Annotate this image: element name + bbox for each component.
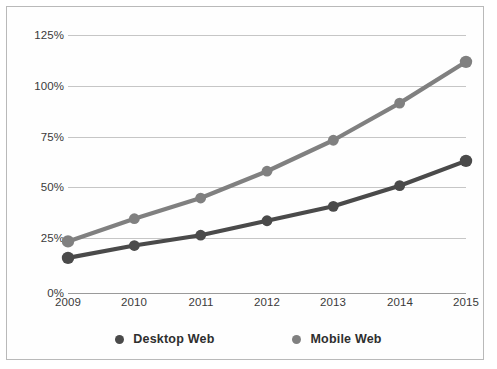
legend-marker-icon-mobile-web <box>292 335 301 344</box>
y-axis-tick-label-100: 100% <box>12 80 64 92</box>
x-axis-tick-label-2010: 2010 <box>104 296 164 308</box>
y-axis-tick-label-50: 50% <box>12 181 64 193</box>
legend-label-desktop-web: Desktop Web <box>133 332 214 346</box>
x-axis-line <box>68 293 466 294</box>
chart-legend: Desktop Web Mobile Web <box>0 328 497 350</box>
legend-item-mobile-web[interactable]: Mobile Web <box>292 332 381 346</box>
gridline-25 <box>68 238 466 239</box>
x-axis-tick-label-2014: 2014 <box>370 296 430 308</box>
x-axis-tick-label-2012: 2012 <box>237 296 297 308</box>
y-axis-tick-label-75: 75% <box>12 131 64 143</box>
plot-area <box>68 35 466 293</box>
gridline-50 <box>68 187 466 188</box>
y-axis-tick-label-125: 125% <box>12 29 64 41</box>
gridline-125 <box>68 35 466 36</box>
x-axis-tick-label-2009: 2009 <box>38 296 98 308</box>
gridline-75 <box>68 137 466 138</box>
legend-marker-icon-desktop-web <box>115 335 124 344</box>
line-chart-figure: 125% 100% 75% 50% 25% 0% 2009 2010 2011 … <box>0 0 497 369</box>
x-axis-tick-label-2013: 2013 <box>303 296 363 308</box>
legend-label-mobile-web: Mobile Web <box>310 332 381 346</box>
gridline-100 <box>68 86 466 87</box>
x-axis-tick-label-2011: 2011 <box>171 296 231 308</box>
x-axis-tick-label-2015: 2015 <box>436 296 496 308</box>
legend-item-desktop-web[interactable]: Desktop Web <box>115 332 214 346</box>
y-axis-tick-label-25: 25% <box>12 232 64 244</box>
